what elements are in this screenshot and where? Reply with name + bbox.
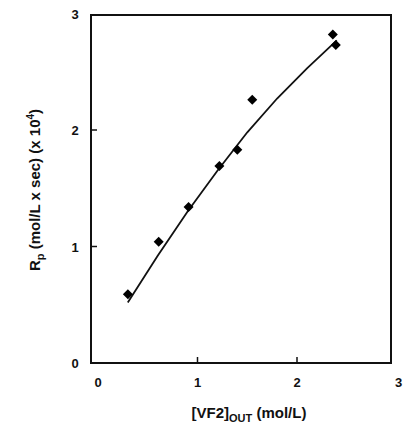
- x-tick-label: 3: [395, 375, 402, 390]
- plot-frame: [91, 15, 391, 363]
- data-point: [232, 145, 242, 155]
- x-tick-label: 1: [194, 375, 201, 390]
- data-point: [247, 95, 257, 105]
- x-axis-title: [VF2]OUT (mol/L): [192, 404, 307, 424]
- fit-curve: [128, 40, 337, 302]
- y-tick-label: 3: [71, 7, 78, 22]
- data-point: [184, 202, 194, 212]
- data-point: [154, 237, 164, 247]
- data-point: [328, 29, 338, 39]
- data-point: [331, 40, 341, 50]
- chart: 01230123[VF2]OUT (mol/L)Rp (mol/L x sec)…: [0, 0, 412, 437]
- y-tick-label: 0: [71, 356, 78, 371]
- y-tick-label: 2: [71, 123, 78, 138]
- y-axis-title: Rp (mol/L x sec) (x 104): [25, 109, 46, 271]
- x-tick-label: 2: [293, 375, 300, 390]
- x-tick-label: 0: [94, 375, 101, 390]
- y-tick-label: 1: [71, 240, 78, 255]
